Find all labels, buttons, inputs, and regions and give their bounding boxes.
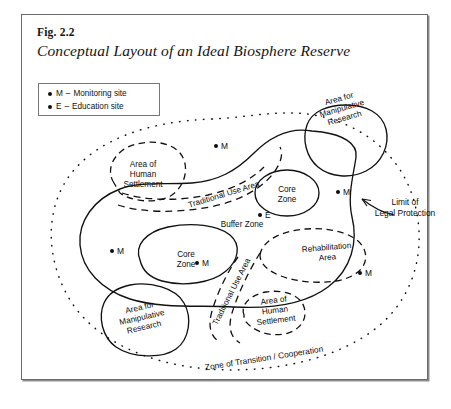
education-site-icon <box>258 213 262 217</box>
marker-label: M <box>365 268 372 278</box>
zone-label-buffer-zone: Buffer Zone <box>204 220 280 230</box>
marker-m-top: M <box>214 141 228 151</box>
monitoring-site-icon <box>110 249 114 253</box>
buffer-zone-boundary <box>80 130 356 307</box>
figure-frame: Fig. 2.2 Conceptual Layout of an Ideal B… <box>21 14 428 380</box>
marker-m-core-lower: M <box>195 258 209 268</box>
marker-label: M <box>221 141 228 151</box>
monitoring-site-icon <box>336 190 340 194</box>
marker-e-center: E <box>258 210 270 220</box>
zone-label-core-zone-upper: Core Zone <box>258 185 316 205</box>
marker-m-rehabilitation: M <box>358 268 372 278</box>
monitoring-site-icon <box>214 144 218 148</box>
marker-label: E <box>265 210 271 220</box>
marker-m-left: M <box>110 246 124 256</box>
marker-m-upper-right: M <box>336 187 350 197</box>
zone-label-human-settlement-upper: Area of Human Settlement <box>108 160 178 190</box>
marker-label: M <box>343 187 350 197</box>
monitoring-site-icon <box>358 271 362 275</box>
marker-label: M <box>202 258 209 268</box>
marker-label: M <box>117 246 124 256</box>
monitoring-site-icon <box>195 261 199 265</box>
annotation-limit-of-legal-protection: Limit of Legal Protection <box>363 197 447 218</box>
